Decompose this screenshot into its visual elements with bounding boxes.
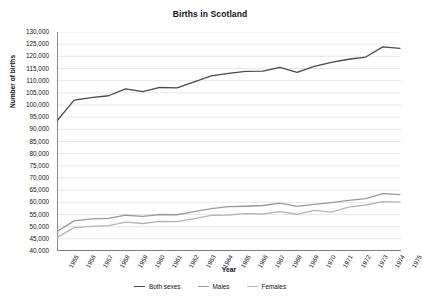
y-tick-label: 85,000	[29, 138, 49, 144]
plot-svg	[57, 32, 401, 251]
y-tick-label: 50,000	[29, 223, 49, 229]
x-axis-title: Year	[57, 266, 401, 273]
y-tick-label: 55,000	[29, 211, 49, 217]
series-line-both-sexes	[57, 47, 400, 121]
chart-legend: Both sexesMalesFemales	[0, 283, 420, 290]
chart-title: Births in Scotland	[0, 9, 420, 19]
y-tick-label: 120,000	[26, 53, 49, 59]
legend-line-icon	[134, 286, 145, 287]
legend-label: Both sexes	[149, 283, 181, 290]
legend-item-females[interactable]: Females	[247, 283, 287, 290]
legend-line-icon	[198, 286, 209, 287]
y-tick-label: 90,000	[29, 126, 49, 132]
y-tick-label: 80,000	[29, 150, 49, 156]
y-tick-label: 130,000	[26, 29, 49, 35]
legend-item-both-sexes[interactable]: Both sexes	[134, 283, 181, 290]
y-tick-label: 100,000	[26, 102, 49, 108]
plot-area	[57, 32, 401, 251]
y-axis-tick-labels: 130,000125,000120,000115,000110,000105,0…	[0, 32, 54, 251]
y-tick-label: 70,000	[29, 175, 49, 181]
legend-line-icon	[247, 286, 258, 287]
y-tick-label: 110,000	[26, 77, 49, 83]
y-tick-label: 40,000	[29, 248, 49, 254]
y-tick-label: 105,000	[26, 90, 49, 96]
legend-label: Females	[262, 283, 287, 290]
y-tick-label: 60,000	[29, 199, 49, 205]
legend-item-males[interactable]: Males	[198, 283, 230, 290]
y-tick-label: 115,000	[26, 65, 49, 71]
y-tick-label: 45,000	[29, 236, 49, 242]
legend-label: Males	[213, 283, 230, 290]
y-tick-label: 125,000	[26, 41, 49, 47]
x-tick-label: 1975	[411, 254, 423, 269]
y-tick-label: 65,000	[29, 187, 49, 193]
y-tick-label: 95,000	[29, 114, 49, 120]
y-tick-label: 75,000	[29, 163, 49, 169]
